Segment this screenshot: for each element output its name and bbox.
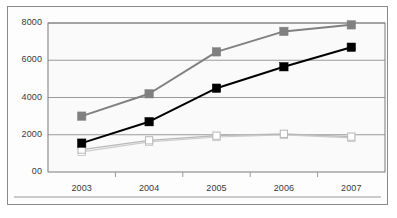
x-axis-tick-label: 2006 xyxy=(259,183,309,193)
data-point-marker xyxy=(212,48,220,56)
y-axis-tick-label: 2000 xyxy=(8,129,42,139)
x-axis-tick-label: 2005 xyxy=(192,183,242,193)
data-point-marker xyxy=(348,133,355,140)
data-point-marker xyxy=(280,63,288,71)
y-axis-tick-label: 6000 xyxy=(8,54,42,64)
data-point-marker xyxy=(78,139,86,147)
x-axis-tick-label: 2007 xyxy=(326,183,376,193)
data-point-marker xyxy=(347,43,355,51)
data-point-marker xyxy=(280,130,287,137)
data-point-marker xyxy=(146,137,153,144)
data-point-marker xyxy=(280,27,288,35)
chart-container: 800060004000200000 20032004200520062007 xyxy=(0,0,397,218)
x-axis-tick-label: 2003 xyxy=(57,183,107,193)
data-point-marker xyxy=(213,132,220,139)
data-point-marker xyxy=(145,90,153,98)
data-point-marker xyxy=(78,112,86,120)
y-axis-tick-label: 4000 xyxy=(8,92,42,102)
x-axis-tick-label: 2004 xyxy=(124,183,174,193)
y-axis-tick-label: 00 xyxy=(8,166,42,176)
x-axis-ticks xyxy=(115,172,317,177)
data-point-marker xyxy=(347,21,355,29)
data-point-marker xyxy=(145,118,153,126)
data-point-marker xyxy=(212,84,220,92)
y-axis-tick-label: 8000 xyxy=(8,17,42,27)
